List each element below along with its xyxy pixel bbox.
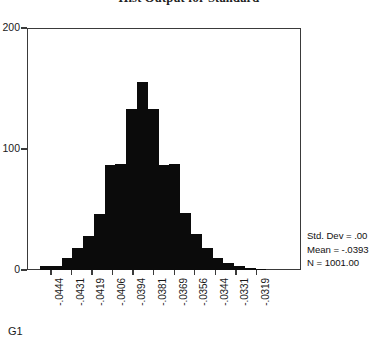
x-tick-label: -.0319 [260, 278, 271, 306]
x-tick-label: -.0344 [219, 278, 230, 306]
x-tick-label: -.0431 [75, 278, 86, 306]
y-tick-label: 100 [0, 142, 20, 154]
x-tick-label: -.0381 [157, 278, 168, 306]
x-tick-mark [71, 270, 72, 275]
y-tick-mark [21, 148, 27, 149]
histogram-bar [158, 165, 169, 270]
x-tick-label: -.0331 [239, 278, 250, 306]
histogram-bar [180, 213, 191, 270]
x-tick-mark [50, 270, 51, 275]
x-tick-mark [112, 270, 113, 275]
x-tick-label: -.0444 [54, 278, 65, 306]
histogram-bar [115, 164, 126, 270]
x-tick-mark [194, 270, 195, 275]
histogram-bar [201, 248, 212, 270]
histogram-bar [244, 268, 255, 270]
x-tick-mark [153, 270, 154, 275]
x-tick-mark [235, 270, 236, 275]
statistics-annotation: Std. Dev = .00 Mean = -.0393 N = 1001.00 [307, 229, 377, 270]
series-label: G1 [8, 325, 23, 337]
x-tick-mark [215, 270, 216, 275]
histogram-bar [51, 266, 62, 270]
std-dev-value: Std. Dev = .00 [307, 229, 377, 243]
histogram-bar [148, 109, 159, 270]
histogram-figure: Hist Output for Standard 0100200 -.0444-… [0, 0, 378, 346]
histogram-bar [126, 109, 137, 270]
x-tick-mark [256, 270, 257, 275]
histogram-bar [212, 258, 223, 270]
histogram-bar [169, 164, 180, 270]
y-tick-label: 200 [0, 21, 20, 33]
histogram-bar [223, 263, 234, 270]
x-tick-label: -.0406 [116, 278, 127, 306]
x-tick-label: -.0356 [198, 278, 209, 306]
plot-area [27, 28, 301, 270]
x-tick-mark [132, 270, 133, 275]
histogram-bar [62, 258, 73, 270]
y-tick-mark [21, 269, 27, 270]
histogram-bar [83, 236, 94, 270]
x-tick-mark [174, 270, 175, 275]
mean-value: Mean = -.0393 [307, 243, 377, 257]
y-tick-label: 0 [0, 263, 20, 275]
x-tick-label: -.0394 [136, 278, 147, 306]
y-tick-mark [21, 27, 27, 28]
histogram-bar [72, 248, 83, 270]
n-value: N = 1001.00 [307, 256, 377, 270]
histogram-bar [191, 234, 202, 270]
histogram-bar [105, 165, 116, 270]
histogram-bar [137, 82, 148, 270]
x-tick-label: -.0369 [178, 278, 189, 306]
x-tick-mark [91, 270, 92, 275]
page-title: Hist Output for Standard [0, 0, 378, 6]
x-tick-label: -.0419 [95, 278, 106, 306]
histogram-bar [94, 214, 105, 270]
